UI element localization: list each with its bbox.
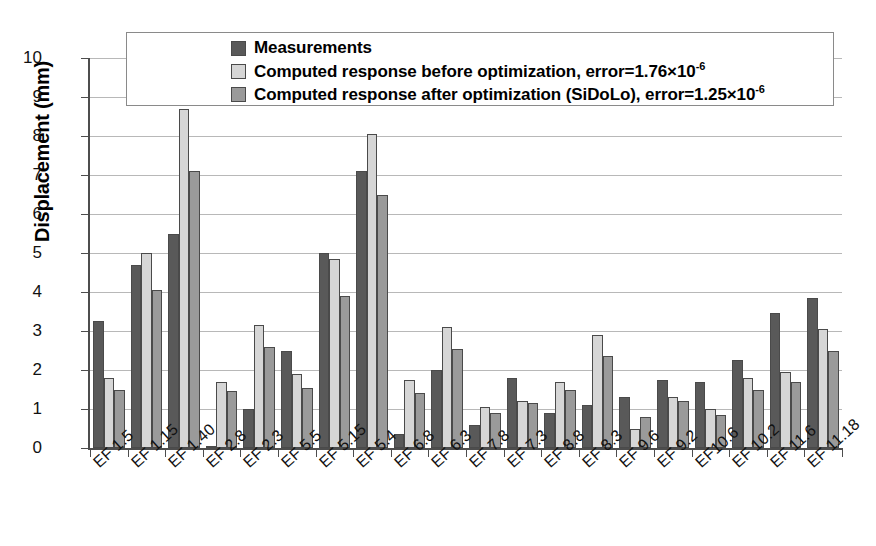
y-tick-label: 4 [2, 282, 42, 302]
bar [131, 265, 142, 448]
legend-exponent: -6 [696, 60, 706, 72]
bar [377, 195, 388, 449]
bar [592, 335, 603, 448]
bar-group [353, 58, 391, 448]
y-tick-mark [81, 370, 90, 371]
bar [152, 290, 163, 448]
plot-area: 109876543210 [88, 58, 842, 450]
bar [281, 351, 292, 449]
bar-group [428, 58, 466, 448]
bar-group [579, 58, 617, 448]
bar [319, 253, 330, 448]
y-tick-mark [81, 58, 90, 59]
y-tick-label: 10 [2, 48, 42, 68]
bar-group [391, 58, 429, 448]
bars-layer [90, 58, 842, 448]
y-tick-mark [81, 136, 90, 137]
y-tick-label: 9 [2, 87, 42, 107]
bar-group [278, 58, 316, 448]
bar-group [541, 58, 579, 448]
y-axis-title: Displacement (mm) [31, 37, 54, 267]
y-tick-mark [81, 97, 90, 98]
bar-group [90, 58, 128, 448]
legend-label-text: Computed response before optimization, e… [254, 62, 696, 81]
y-tick-mark [81, 214, 90, 215]
legend-exponent: -6 [755, 83, 765, 95]
x-tick-mark [128, 448, 129, 457]
bar [442, 327, 453, 448]
x-tick-mark [692, 448, 693, 457]
y-tick-label: 1 [2, 399, 42, 419]
bar-group [504, 58, 542, 448]
y-tick-mark [81, 409, 90, 410]
y-tick-label: 6 [2, 204, 42, 224]
bar-group [692, 58, 730, 448]
bar-chart: Displacement (mm) 109876543210 EF 1.5EF … [0, 0, 876, 546]
x-tick-mark [842, 448, 843, 457]
y-tick-mark [81, 292, 90, 293]
bar [367, 134, 378, 448]
legend-label-text: Computed response after optimization (Si… [254, 85, 755, 104]
legend-entry-before-optimization: Computed response before optimization, e… [231, 60, 833, 82]
y-tick-mark [81, 448, 90, 449]
legend-swatch-icon [231, 41, 246, 56]
bar [93, 321, 104, 448]
bar [141, 253, 152, 448]
bar [329, 259, 340, 448]
legend-label: Computed response after optimization (Si… [254, 83, 765, 105]
bar [168, 234, 179, 449]
bar [818, 329, 829, 448]
chart-legend: Measurements Computed response before op… [126, 32, 834, 106]
bar-group [165, 58, 203, 448]
bar-group [466, 58, 504, 448]
legend-label: Measurements [254, 38, 372, 58]
y-tick-label: 3 [2, 321, 42, 341]
legend-entry-measurements: Measurements [231, 37, 833, 59]
bar [356, 171, 367, 448]
bar [340, 296, 351, 448]
y-tick-mark [81, 175, 90, 176]
bar-group [203, 58, 241, 448]
bar-group [729, 58, 767, 448]
y-tick-mark [81, 253, 90, 254]
x-axis-labels: EF 1.5EF 1.15EF 1.40EF 2.8EF 2.3EF 5.5EF… [88, 458, 840, 546]
bar-group [316, 58, 354, 448]
legend-entry-after-optimization: Computed response after optimization (Si… [231, 83, 833, 105]
bar-group [804, 58, 842, 448]
y-tick-label: 5 [2, 243, 42, 263]
bar-group [767, 58, 805, 448]
bar-group [616, 58, 654, 448]
bar [179, 109, 190, 448]
y-tick-label: 0 [2, 438, 42, 458]
x-tick-mark [504, 448, 505, 457]
y-tick-label: 2 [2, 360, 42, 380]
bar-group [240, 58, 278, 448]
legend-swatch-icon [231, 64, 246, 79]
bar-group [654, 58, 692, 448]
legend-label: Computed response before optimization, e… [254, 60, 705, 82]
bar [189, 171, 200, 448]
y-tick-label: 7 [2, 165, 42, 185]
legend-swatch-icon [231, 87, 246, 102]
bar [254, 325, 265, 448]
bar-group [128, 58, 166, 448]
x-tick-mark [316, 448, 317, 457]
y-tick-label: 8 [2, 126, 42, 146]
y-tick-mark [81, 331, 90, 332]
